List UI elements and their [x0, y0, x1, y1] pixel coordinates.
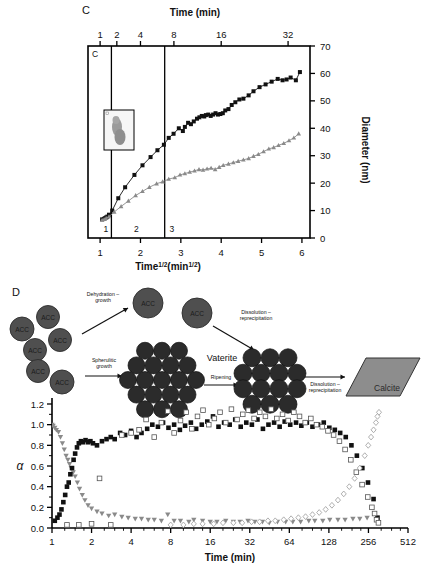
- data-point: [229, 407, 234, 412]
- data-point: [241, 97, 245, 101]
- data-point: [347, 484, 352, 490]
- panel-d-plot: 0.00.20.40.60.81.01.2α124816326412825651…: [17, 398, 416, 563]
- data-point: [270, 80, 274, 84]
- data-point: [112, 513, 117, 518]
- data-point: [95, 443, 100, 448]
- x-tick-label: 4: [128, 536, 133, 547]
- data-point: [342, 518, 347, 523]
- top-tick-label: 1: [97, 29, 102, 40]
- nanoparticle: [279, 349, 297, 367]
- data-point: [352, 476, 357, 482]
- data-point: [201, 408, 206, 413]
- x-tick-label: 1: [49, 536, 54, 547]
- data-point: [337, 439, 342, 444]
- data-point: [134, 435, 139, 440]
- data-point: [233, 100, 237, 104]
- y-tick-label: 1.0: [31, 419, 44, 430]
- y-tick-label: 0.0: [31, 523, 44, 534]
- data-point: [275, 416, 280, 421]
- data-point: [331, 433, 336, 438]
- data-point: [183, 423, 188, 428]
- data-point: [226, 107, 230, 111]
- data-point: [349, 458, 354, 463]
- data-point: [61, 500, 66, 505]
- data-point: [285, 77, 289, 81]
- data-point: [200, 521, 205, 527]
- inset-scalebar: [106, 112, 109, 115]
- data-point: [369, 434, 374, 440]
- nanoparticle: [145, 357, 162, 374]
- data-point: [65, 484, 70, 489]
- y-tick-label: 60: [320, 68, 331, 79]
- x-tick-label: 5: [259, 247, 264, 258]
- data-point: [277, 424, 282, 429]
- data-point: [364, 516, 369, 521]
- data-point: [58, 435, 63, 440]
- bottom-title-sup1: 1/2: [158, 261, 167, 268]
- data-point: [73, 451, 78, 456]
- data-point: [365, 495, 370, 500]
- series-calcite-open-diamonds: [168, 409, 381, 527]
- top-tick-label: 16: [216, 29, 227, 40]
- data-point: [294, 420, 299, 425]
- acc-particle: ACC: [10, 317, 34, 341]
- acc-particle: ACC: [182, 298, 212, 328]
- data-point: [338, 431, 343, 436]
- data-point: [264, 82, 268, 86]
- data-point: [362, 453, 367, 459]
- nanoparticle: [188, 372, 205, 389]
- data-point: [237, 97, 241, 101]
- y-tick-label: 50: [320, 95, 331, 106]
- data-point: [266, 422, 271, 427]
- data-point: [350, 517, 355, 522]
- acc-particle: ACC: [50, 370, 74, 394]
- data-point: [190, 427, 195, 432]
- svg-text:growth: growth: [96, 363, 112, 369]
- arrow-ripening: [204, 382, 238, 387]
- nanoparticle: [252, 380, 270, 398]
- data-point: [99, 512, 104, 517]
- data-point: [250, 422, 255, 427]
- label-spherulitic-growth: Spheruliticgrowth: [92, 357, 117, 369]
- data-point: [140, 163, 144, 167]
- nanoparticle: [162, 386, 179, 403]
- data-point: [152, 435, 157, 440]
- data-point: [247, 93, 251, 97]
- nanoparticle: [179, 386, 196, 403]
- data-point: [366, 442, 371, 448]
- svg-text:Time1/2(min1/2): Time1/2(min1/2): [135, 261, 201, 273]
- data-point: [206, 422, 211, 427]
- acc-particle-label: ACC: [55, 379, 69, 386]
- data-point: [292, 410, 297, 415]
- data-point: [65, 458, 70, 463]
- y-tick-label: 70: [320, 41, 331, 52]
- bottom-title-end: ): [198, 261, 201, 272]
- data-point: [116, 196, 120, 200]
- y-tick-label: 20: [320, 178, 331, 189]
- nanoparticle: [270, 380, 288, 398]
- data-point: [72, 474, 77, 479]
- nanoparticle: [171, 372, 188, 389]
- y-tick-label: 0.8: [31, 440, 44, 451]
- nanoparticle: [128, 386, 145, 403]
- particle-blob: [115, 129, 126, 145]
- region-label-3: 3: [170, 224, 175, 234]
- data-point: [360, 482, 365, 487]
- data-point: [106, 514, 111, 519]
- acc-particle-label: ACC: [41, 314, 55, 321]
- x-tick-label: 32: [244, 536, 255, 547]
- nanoparticle: [128, 357, 145, 374]
- data-point: [191, 521, 196, 527]
- data-point: [129, 431, 134, 436]
- data-point: [370, 505, 375, 510]
- label-dissolution-reprecip-2: Dissolution –reprecipitation: [309, 381, 342, 393]
- data-point: [343, 447, 348, 452]
- data-point: [162, 143, 166, 147]
- data-point: [178, 418, 183, 423]
- data-point: [251, 89, 255, 93]
- data-point: [218, 410, 223, 415]
- svg-text:reprecipitation: reprecipitation: [309, 387, 342, 393]
- panel-d-y-axis-title: α: [17, 459, 25, 473]
- data-point: [132, 173, 136, 177]
- data-point: [280, 412, 285, 417]
